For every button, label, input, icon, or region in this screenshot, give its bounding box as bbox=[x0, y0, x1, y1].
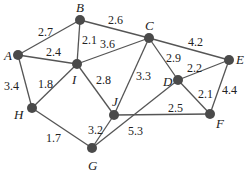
node-D bbox=[173, 75, 183, 85]
edge-weight-H-G: 1.7 bbox=[46, 131, 61, 145]
node-J bbox=[109, 110, 119, 120]
node-label-D: D bbox=[162, 74, 173, 89]
edge-A-H bbox=[18, 55, 32, 108]
edge-J-F bbox=[114, 114, 210, 115]
edge-weight-A-B: 2.7 bbox=[38, 25, 53, 39]
edge-H-G bbox=[32, 108, 92, 148]
edge-weight-D-E: 2.2 bbox=[187, 61, 202, 75]
node-label-F: F bbox=[215, 116, 225, 131]
node-E bbox=[224, 55, 234, 65]
node-A bbox=[13, 50, 23, 60]
edge-weight-G-D: 5.3 bbox=[128, 124, 143, 138]
node-label-I: I bbox=[71, 72, 77, 87]
edge-weight-A-H: 3.4 bbox=[4, 79, 19, 93]
edge-weight-C-D: 2.9 bbox=[166, 51, 181, 65]
edge-weight-I-H: 1.8 bbox=[38, 77, 53, 91]
edge-D-E bbox=[178, 60, 229, 80]
edge-weight-C-E: 4.2 bbox=[188, 35, 203, 49]
node-label-C: C bbox=[145, 18, 154, 33]
edge-weight-D-F: 2.1 bbox=[198, 87, 213, 101]
edge-weight-J-G: 3.2 bbox=[88, 123, 103, 137]
node-label-H: H bbox=[13, 107, 24, 122]
node-C bbox=[144, 33, 154, 43]
edge-weight-I-J: 2.8 bbox=[96, 73, 111, 87]
graph-canvas: 2.72.62.12.43.64.22.93.32.22.14.43.41.82… bbox=[0, 0, 248, 175]
node-H bbox=[27, 103, 37, 113]
node-label-G: G bbox=[88, 158, 98, 173]
edge-weight-A-I: 2.4 bbox=[46, 45, 61, 59]
edge-weight-I-C: 3.6 bbox=[100, 37, 115, 51]
node-label-B: B bbox=[76, 0, 84, 15]
edge-weight-E-F: 4.4 bbox=[222, 83, 237, 97]
edge-weight-J-F: 2.5 bbox=[168, 101, 183, 115]
edge-I-J bbox=[77, 64, 114, 115]
weighted-graph-diagram: 2.72.62.12.43.64.22.93.32.22.14.43.41.82… bbox=[0, 0, 248, 175]
edge-B-I bbox=[77, 20, 80, 64]
node-label-A: A bbox=[3, 48, 12, 63]
node-G bbox=[87, 143, 97, 153]
edge-weight-C-J: 3.3 bbox=[136, 69, 151, 83]
edge-weight-B-C: 2.6 bbox=[108, 13, 123, 27]
node-label-E: E bbox=[235, 52, 244, 67]
node-B bbox=[75, 15, 85, 25]
node-F bbox=[205, 109, 215, 119]
edge-weight-B-I: 2.1 bbox=[82, 33, 97, 47]
node-I bbox=[72, 59, 82, 69]
